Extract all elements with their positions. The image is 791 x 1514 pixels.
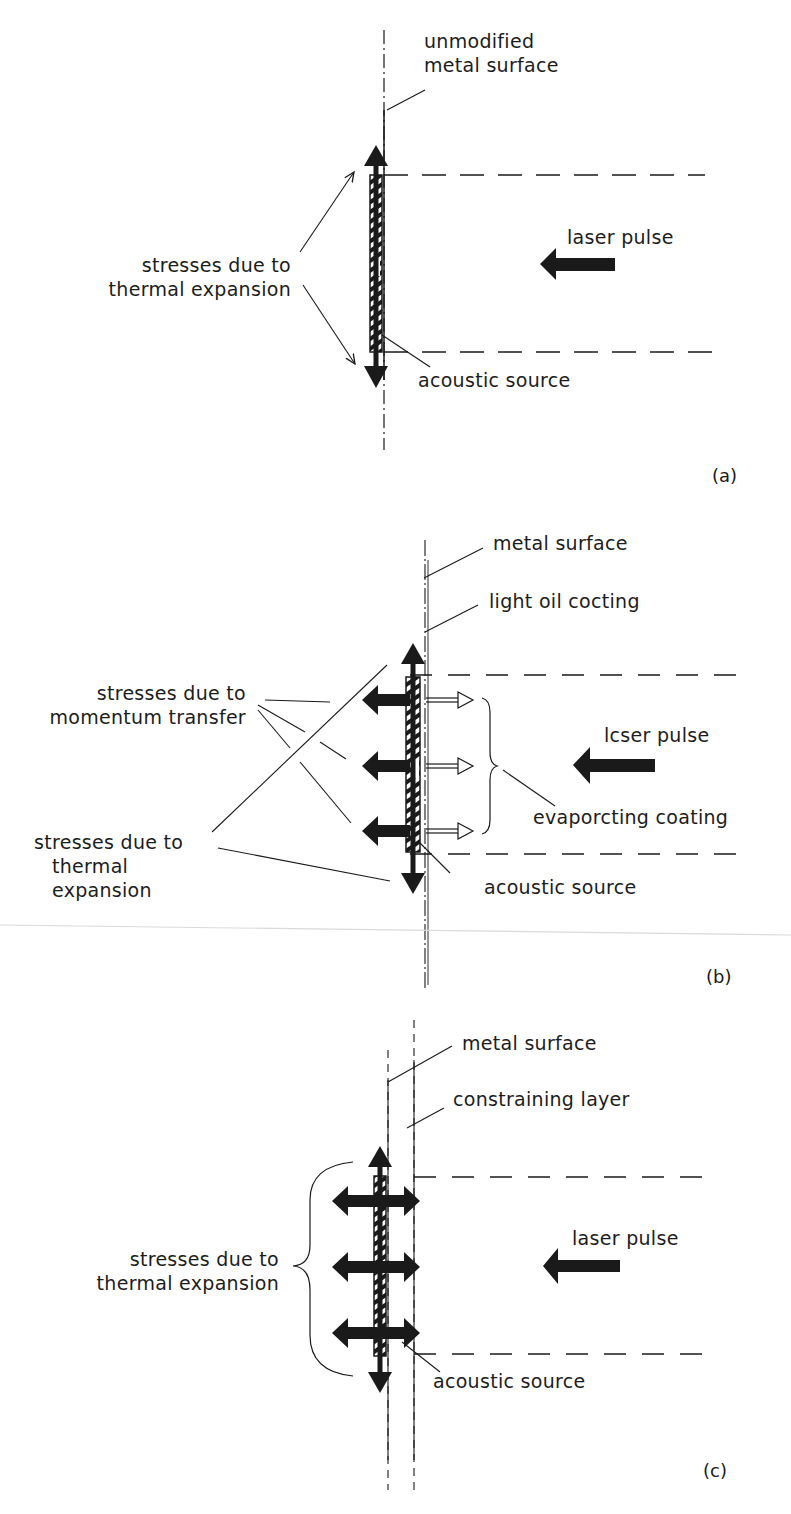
label-acoustic-source: acoustic source xyxy=(418,369,570,391)
leader-surface xyxy=(424,548,483,578)
leader-coating xyxy=(425,605,478,632)
label-evaporating-coating: evaporcting coating xyxy=(533,806,728,828)
label-stresses: stresses due to xyxy=(142,254,291,276)
label-thermal-expansion: thermal expansion xyxy=(97,1272,279,1294)
label-metal-surface: metal surface xyxy=(424,54,559,76)
leader-layer xyxy=(407,1108,444,1128)
label-momentum-transfer: momentum transfer xyxy=(49,706,246,728)
label-stresses: stresses due to xyxy=(130,1248,279,1270)
label-laser-pulse: lcser pulse xyxy=(604,724,709,746)
laser-arrow-icon xyxy=(540,248,615,280)
label-unmodified: unmodified xyxy=(424,30,534,52)
label-metal-surface: metal surface xyxy=(493,532,628,554)
label-acoustic-source: acoustic source xyxy=(484,876,636,898)
label-stresses-momentum: stresses due to xyxy=(97,682,246,704)
evaporation-arrow-icon xyxy=(426,692,473,839)
brace xyxy=(482,698,497,834)
label-thermal-expansion: thermal expansion xyxy=(109,278,291,300)
label-laser-pulse: laser pulse xyxy=(567,226,674,248)
leader-surface xyxy=(387,90,425,110)
label-thermal: thermal xyxy=(52,855,128,877)
label-light-oil-coating: light oil cocting xyxy=(489,590,640,612)
laser-arrow-icon xyxy=(543,1248,620,1284)
laser-arrow-icon xyxy=(573,747,655,784)
panel-tag-b: (b) xyxy=(706,966,731,987)
panel-tag-a: (a) xyxy=(712,465,737,486)
label-constraining-layer: constraining layer xyxy=(453,1088,630,1110)
panel-tag-c: (c) xyxy=(703,1460,727,1481)
panel-b xyxy=(212,540,752,990)
leader-surface xyxy=(388,1046,452,1082)
label-expansion: expansion xyxy=(52,879,152,901)
momentum-arrow-icon xyxy=(362,685,410,846)
label-acoustic-source: acoustic source xyxy=(433,1370,585,1392)
label-stresses-thermal: stresses due to xyxy=(34,831,183,853)
label-metal-surface: metal surface xyxy=(462,1032,597,1054)
label-laser-pulse: laser pulse xyxy=(572,1227,679,1249)
